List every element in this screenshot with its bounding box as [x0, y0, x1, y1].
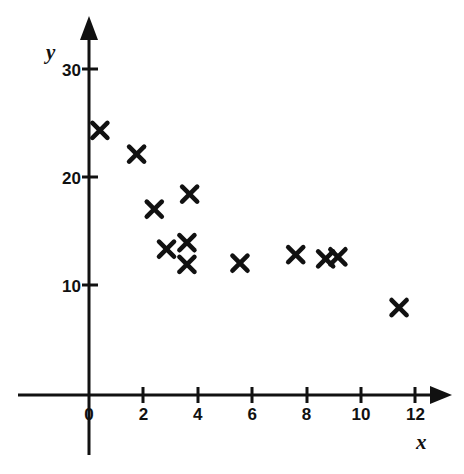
x-tick-label-8: 8: [287, 406, 327, 423]
data-point-marker: [288, 247, 303, 262]
data-point-marker: [129, 147, 144, 162]
data-point-marker: [330, 249, 345, 264]
data-point-markers: [92, 123, 406, 315]
data-point-marker: [182, 187, 197, 202]
data-point-marker: [179, 257, 194, 272]
x-axis-arrowhead: [430, 386, 452, 404]
scatter-plot-figure: y x 024681012102030: [0, 0, 464, 474]
x-axis-label: x: [416, 432, 427, 453]
data-point-marker: [392, 300, 407, 315]
y-axis-label: y: [46, 42, 55, 63]
data-point-marker: [232, 256, 247, 271]
x-tick-label-6: 6: [232, 406, 272, 423]
y-axis-arrowhead: [80, 16, 98, 40]
x-tick-label-0: 0: [69, 406, 109, 423]
x-tick-label-10: 10: [341, 406, 381, 423]
data-point-marker: [159, 242, 174, 257]
x-tick-label-4: 4: [178, 406, 218, 423]
x-tick-label-2: 2: [123, 406, 163, 423]
y-tick-label-30: 30: [41, 62, 81, 79]
data-point-marker: [147, 202, 162, 217]
x-tick-label-12: 12: [395, 406, 435, 423]
y-tick-label-20: 20: [41, 170, 81, 187]
data-point-marker: [92, 123, 107, 138]
y-tick-label-10: 10: [41, 278, 81, 295]
data-point-marker: [179, 235, 194, 250]
